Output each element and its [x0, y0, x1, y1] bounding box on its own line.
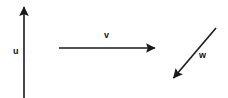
- vector-label-u: u: [13, 47, 19, 56]
- vector-label-w: w: [199, 51, 206, 60]
- vector-diagram: u v w: [0, 0, 228, 98]
- vector-canvas: [0, 0, 228, 98]
- vector-label-v: v: [104, 31, 109, 40]
- vector-w-arrow: [174, 28, 217, 78]
